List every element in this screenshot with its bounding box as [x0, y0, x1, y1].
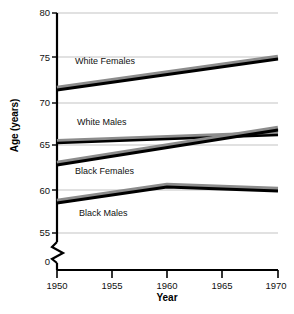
x-tick-marks: [57, 270, 278, 278]
y-axis-break-icon: [52, 242, 63, 263]
xtick-label-1950: 1950: [37, 280, 77, 291]
ytick-label-55: 55: [24, 227, 50, 238]
series-black-females: [57, 128, 278, 165]
series-black-males: [57, 185, 278, 203]
series-label-white-females: White Females: [75, 56, 135, 66]
ytick-label-65: 65: [24, 139, 50, 150]
x-axis-title: Year: [40, 292, 294, 303]
ytick-label-0: 0: [24, 256, 50, 267]
life-expectancy-line-chart: 80 75 70 65 60 55 0 1950 1955 1960 1965 …: [0, 0, 294, 314]
xtick-label-1955: 1955: [92, 280, 132, 291]
x-axis: [57, 270, 278, 278]
ytick-label-80: 80: [24, 7, 50, 18]
ytick-label-70: 70: [24, 97, 50, 108]
ytick-label-75: 75: [24, 52, 50, 63]
series-label-black-males: Black Males: [79, 208, 128, 218]
xtick-label-1965: 1965: [202, 280, 242, 291]
series-label-black-females: Black Females: [75, 166, 134, 176]
series-label-white-males: White Males: [77, 117, 127, 127]
xtick-label-1960: 1960: [147, 280, 187, 291]
y-axis-title: Age (years): [9, 86, 20, 166]
xtick-label-1970: 1970: [256, 280, 294, 291]
series-black-females-shadow: [57, 128, 278, 163]
ytick-label-60: 60: [24, 185, 50, 196]
